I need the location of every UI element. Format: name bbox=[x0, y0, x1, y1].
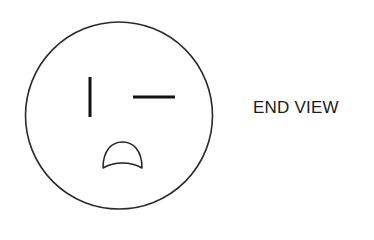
receptacle-outline bbox=[26, 22, 213, 209]
ground-hole bbox=[103, 142, 142, 168]
end-view-label: END VIEW bbox=[253, 98, 339, 118]
